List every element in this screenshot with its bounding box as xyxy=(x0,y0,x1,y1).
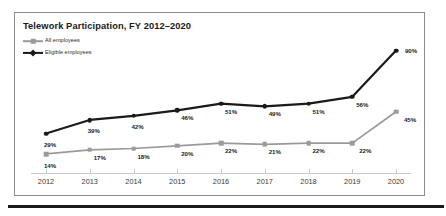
line-eligible-employees xyxy=(46,51,396,134)
data-label: 45% xyxy=(404,116,416,123)
data-point xyxy=(87,148,92,153)
x-label-2014: 2014 xyxy=(125,177,141,186)
chart-frame: Telework Participation, FY 2012–2020 All… xyxy=(14,12,425,196)
data-label: 17% xyxy=(94,154,106,161)
data-label: 22% xyxy=(225,147,237,154)
data-label: 14% xyxy=(44,162,56,169)
x-label-2015: 2015 xyxy=(169,177,185,186)
data-point xyxy=(44,131,49,136)
x-tick-2016 xyxy=(221,169,222,174)
data-point xyxy=(394,110,399,115)
data-label: 22% xyxy=(312,147,324,154)
x-label-2020: 2020 xyxy=(388,177,404,186)
bottom-rule xyxy=(8,205,444,208)
data-label: 20% xyxy=(181,150,193,157)
data-point xyxy=(306,101,311,106)
data-point xyxy=(131,114,136,119)
data-label: 29% xyxy=(44,141,56,148)
x-label-2016: 2016 xyxy=(213,177,229,186)
data-point xyxy=(306,141,311,146)
data-point xyxy=(350,95,355,100)
x-tick-2017 xyxy=(265,169,266,174)
data-point xyxy=(175,144,180,149)
data-point xyxy=(87,118,92,123)
data-label: 22% xyxy=(359,147,371,154)
data-label: 21% xyxy=(269,148,281,155)
data-label: 49% xyxy=(269,110,281,117)
data-label: 56% xyxy=(356,101,368,108)
data-point xyxy=(262,104,267,109)
x-tick-2019 xyxy=(352,169,353,174)
data-label: 18% xyxy=(137,153,149,160)
data-label: 39% xyxy=(88,127,100,134)
data-point xyxy=(44,152,49,157)
data-point xyxy=(350,141,355,146)
data-label: 42% xyxy=(131,123,143,130)
data-label: 90% xyxy=(405,47,417,54)
data-point xyxy=(219,141,224,146)
data-point xyxy=(394,48,399,53)
data-point xyxy=(175,108,180,113)
x-tick-2020 xyxy=(396,169,397,174)
x-tick-2013 xyxy=(90,169,91,174)
data-label: 51% xyxy=(312,108,324,115)
x-label-2012: 2012 xyxy=(38,177,54,186)
chart-page: Telework Participation, FY 2012–2020 All… xyxy=(0,0,446,216)
x-tick-2015 xyxy=(177,169,178,174)
x-tick-2012 xyxy=(46,169,47,174)
x-label-2017: 2017 xyxy=(257,177,273,186)
data-label: 46% xyxy=(181,114,193,121)
plot-area: 29%39%42%46%51%49%51%56%90%14%17%18%20%2… xyxy=(15,13,426,197)
data-point xyxy=(219,101,224,106)
x-label-2019: 2019 xyxy=(344,177,360,186)
x-label-2013: 2013 xyxy=(82,177,98,186)
x-tick-2018 xyxy=(309,169,310,174)
data-label: 51% xyxy=(225,108,237,115)
data-point xyxy=(131,146,136,151)
x-label-2018: 2018 xyxy=(300,177,316,186)
x-tick-2014 xyxy=(134,169,135,174)
data-point xyxy=(262,142,267,147)
